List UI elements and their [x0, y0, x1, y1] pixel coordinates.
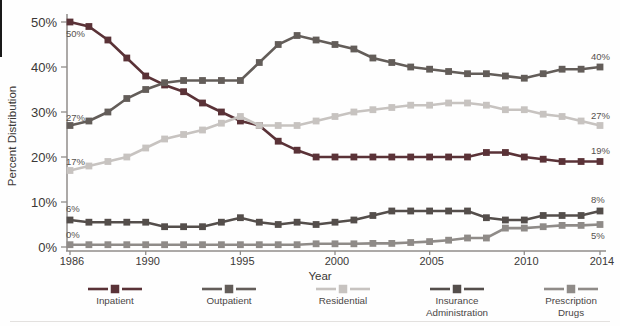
legend-item-prescription-drugs: PrescriptionDrugs	[544, 285, 598, 318]
series-marker-prescription-drugs	[86, 241, 93, 248]
legend-label-prescription-drugs: PrescriptionDrugs	[545, 295, 597, 318]
series-marker-prescription-drugs	[237, 241, 244, 248]
series-marker-residential	[142, 145, 149, 152]
series-marker-inpatient	[521, 154, 528, 161]
y-axis-title: Percent Distribution	[6, 86, 18, 186]
series-marker-insurance-administration	[351, 217, 358, 224]
series-marker-insurance-administration	[426, 208, 433, 215]
series-marker-outpatient	[294, 32, 301, 39]
series-end-label-inpatient: 19%	[591, 145, 611, 156]
series-marker-prescription-drugs	[218, 241, 225, 248]
legend-marker-outpatient	[225, 285, 234, 294]
legend-item-outpatient: Outpatient	[202, 285, 256, 306]
series-marker-residential	[86, 163, 93, 170]
legend-marker-inpatient	[111, 285, 120, 294]
series-marker-prescription-drugs	[559, 222, 566, 229]
series-marker-prescription-drugs	[67, 241, 74, 248]
series-marker-insurance-administration	[502, 217, 509, 224]
series-marker-insurance-administration	[540, 212, 547, 219]
series-start-label-inpatient: 50%	[66, 28, 86, 39]
series-marker-prescription-drugs	[256, 241, 263, 248]
series-marker-prescription-drugs	[483, 235, 490, 242]
legend-marker-prescription-drugs	[567, 285, 576, 294]
legend-label-insurance-administration: InsuranceAdministration	[426, 295, 488, 318]
series-marker-insurance-administration	[161, 223, 168, 230]
series-marker-residential	[294, 122, 301, 129]
series-marker-inpatient	[199, 100, 206, 107]
x-axis-title: Year	[308, 270, 331, 282]
series-marker-insurance-administration	[86, 219, 93, 226]
series-marker-prescription-drugs	[407, 239, 414, 246]
series-end-label-residential: 27%	[591, 110, 611, 121]
legend-item-residential: Residential	[316, 285, 370, 306]
series-marker-prescription-drugs	[521, 225, 528, 232]
series-marker-inpatient	[540, 156, 547, 163]
series-marker-insurance-administration	[313, 221, 320, 228]
series-start-label-prescription-drugs: 0%	[66, 229, 80, 240]
legend-marker-insurance-administration	[453, 285, 462, 294]
series-marker-prescription-drugs	[105, 241, 112, 248]
series-marker-inpatient	[578, 158, 585, 165]
series-marker-insurance-administration	[445, 208, 452, 215]
series-marker-residential	[559, 113, 566, 120]
series-marker-inpatient	[559, 158, 566, 165]
series-marker-inpatient	[502, 149, 509, 156]
series-marker-outpatient	[464, 70, 471, 77]
legend-item-insurance-administration: InsuranceAdministration	[426, 285, 488, 318]
series-marker-outpatient	[161, 79, 168, 86]
series-marker-insurance-administration	[521, 217, 528, 224]
series-marker-outpatient	[313, 37, 320, 44]
series-start-label-insurance-administration: 6%	[66, 203, 80, 214]
series-marker-outpatient	[351, 46, 358, 53]
series-marker-inpatient	[142, 73, 149, 80]
series-marker-insurance-administration	[294, 219, 301, 226]
series-marker-outpatient	[199, 77, 206, 84]
series-marker-insurance-administration	[388, 208, 395, 215]
series-marker-outpatient	[540, 70, 547, 77]
series-end-label-outpatient: 40%	[591, 51, 611, 62]
bottom-rule	[10, 321, 610, 322]
series-marker-residential	[199, 127, 206, 134]
series-marker-prescription-drugs	[332, 240, 339, 247]
series-marker-residential	[218, 120, 225, 127]
x-tick-label: 2000	[325, 255, 349, 267]
series-marker-prescription-drugs	[502, 225, 509, 232]
legend-label-outpatient: Outpatient	[206, 295, 251, 306]
x-tick-label: 2005	[419, 255, 443, 267]
series-marker-insurance-administration	[407, 208, 414, 215]
series-marker-residential	[464, 100, 471, 107]
series-marker-insurance-administration	[370, 212, 377, 219]
series-marker-residential	[483, 102, 490, 109]
series-marker-prescription-drugs	[370, 240, 377, 247]
series-marker-prescription-drugs	[275, 241, 282, 248]
series-marker-inpatient	[483, 149, 490, 156]
series-marker-residential	[388, 104, 395, 111]
legend-label-residential: Residential	[319, 295, 367, 306]
x-tick-label: 2010	[514, 255, 538, 267]
series-marker-inpatient	[294, 147, 301, 154]
series-marker-insurance-administration	[256, 219, 263, 226]
series-marker-insurance-administration	[332, 219, 339, 226]
series-marker-outpatient	[426, 66, 433, 73]
series-marker-prescription-drugs	[426, 238, 433, 245]
series-marker-outpatient	[275, 41, 282, 48]
series-marker-outpatient	[256, 59, 263, 66]
series-marker-prescription-drugs	[180, 241, 187, 248]
series-marker-residential	[256, 122, 263, 129]
legend-label-inpatient: Inpatient	[96, 295, 134, 306]
y-tick-label: 0%	[38, 240, 57, 255]
series-marker-residential	[123, 154, 130, 161]
series-marker-outpatient	[67, 122, 74, 129]
series-marker-residential	[578, 118, 585, 125]
series-marker-insurance-administration	[123, 219, 130, 226]
series-marker-insurance-administration	[105, 219, 112, 226]
series-marker-inpatient	[123, 55, 130, 62]
y-tick-label: 30%	[31, 105, 57, 120]
series-marker-residential	[161, 136, 168, 143]
series-start-label-outpatient: 27%	[66, 112, 86, 123]
series-marker-insurance-administration	[275, 221, 282, 228]
series-end-label-insurance-administration: 8%	[591, 194, 605, 205]
series-marker-residential	[275, 122, 282, 129]
series-marker-insurance-administration	[578, 212, 585, 219]
series-marker-inpatient	[332, 154, 339, 161]
